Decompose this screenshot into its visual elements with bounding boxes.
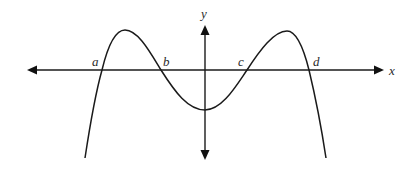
y-axis-down-arrow-icon	[201, 150, 210, 160]
x-axis-left-arrow-icon	[27, 66, 37, 75]
root-label-c: c	[238, 54, 244, 69]
root-label-b: b	[163, 54, 170, 69]
root-label-a: a	[92, 54, 99, 69]
x-axis-label: x	[388, 63, 395, 78]
x-axis: x	[27, 63, 395, 78]
polynomial-graph: x y a b c d	[0, 0, 416, 172]
root-label-d: d	[313, 54, 320, 69]
x-axis-right-arrow-icon	[374, 66, 384, 75]
y-axis: y	[199, 6, 210, 160]
y-axis-up-arrow-icon	[201, 25, 210, 35]
root-labels: a b c d	[92, 54, 320, 69]
y-axis-label: y	[199, 6, 207, 21]
